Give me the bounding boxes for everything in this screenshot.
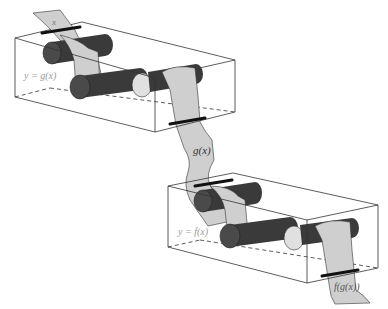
g-machine-box-back [15, 22, 235, 112]
g-machine-label: y = g(x) [23, 70, 57, 82]
f-machine: y = f(x) f(g(x)) [168, 173, 378, 304]
strip-intermediate-label: g(x) [193, 144, 211, 157]
f-machine-label: y = f(x) [177, 226, 209, 238]
strip-output-label: f(g(x)) [334, 281, 360, 293]
strip-input-label: x [51, 17, 56, 27]
composition-diagram: y = g(x) x g(x) [0, 0, 388, 309]
